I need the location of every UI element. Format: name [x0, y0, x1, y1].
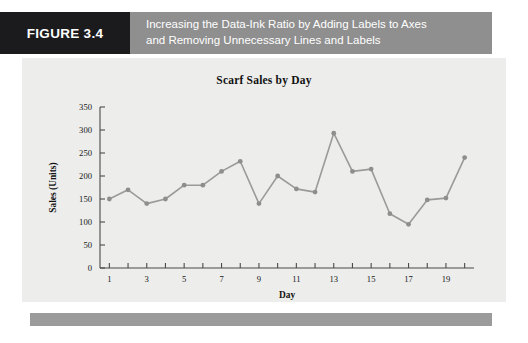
data-point [257, 201, 262, 206]
y-axis-title: Sales (Units) [48, 162, 59, 212]
x-tick-label: 5 [182, 274, 186, 284]
data-point [350, 169, 355, 174]
data-point [107, 197, 112, 202]
x-axis-title: Day [279, 290, 295, 300]
data-point [275, 174, 280, 179]
data-point [200, 183, 205, 188]
data-point [238, 159, 243, 164]
chart-panel: Scarf Sales by Day 050100150200250300350… [22, 58, 506, 302]
data-point [425, 198, 430, 203]
y-tick-label: 250 [79, 148, 92, 158]
data-point [219, 169, 224, 174]
x-tick-label: 19 [442, 274, 451, 284]
x-tick-label: 3 [145, 274, 149, 284]
figure-footer-bar [30, 313, 492, 326]
data-point [331, 131, 336, 136]
data-point [144, 201, 149, 206]
data-point [462, 155, 467, 160]
figure-caption: Increasing the Data-Ink Ratio by Adding … [130, 12, 492, 54]
data-point [387, 211, 392, 216]
y-tick-label: 350 [79, 102, 92, 112]
x-tick-label: 1 [107, 274, 111, 284]
data-series-line [109, 133, 464, 224]
x-tick-label: 9 [257, 274, 261, 284]
x-tick-label: 15 [367, 274, 376, 284]
y-tick-label: 50 [83, 240, 92, 250]
y-tick-label: 150 [79, 194, 92, 204]
data-point [163, 197, 168, 202]
x-tick-label: 17 [404, 274, 413, 284]
y-tick-label: 300 [79, 125, 92, 135]
y-tick-label: 0 [88, 263, 92, 273]
data-point [126, 187, 131, 192]
data-point [406, 222, 411, 227]
data-point [313, 190, 318, 195]
x-tick-label: 11 [292, 274, 300, 284]
y-tick-label: 100 [79, 217, 92, 227]
figure-caption-line-1: Increasing the Data-Ink Ratio by Adding … [146, 17, 484, 33]
figure-number-badge: FIGURE 3.4 [0, 12, 130, 54]
x-tick-label: 13 [329, 274, 338, 284]
data-point [369, 167, 374, 172]
figure-header: FIGURE 3.4 Increasing the Data-Ink Ratio… [0, 12, 492, 54]
data-point [294, 186, 299, 191]
data-point [182, 183, 187, 188]
x-tick-label: 7 [219, 274, 224, 284]
figure-caption-line-2: and Removing Unnecessary Lines and Label… [146, 33, 484, 49]
chart-svg: 050100150200250300350135791113151719DayS… [22, 58, 506, 302]
line-chart: 050100150200250300350135791113151719DayS… [22, 58, 506, 302]
figure-container: FIGURE 3.4 Increasing the Data-Ink Ratio… [0, 0, 528, 343]
y-tick-label: 200 [79, 171, 92, 181]
data-point [444, 196, 449, 201]
